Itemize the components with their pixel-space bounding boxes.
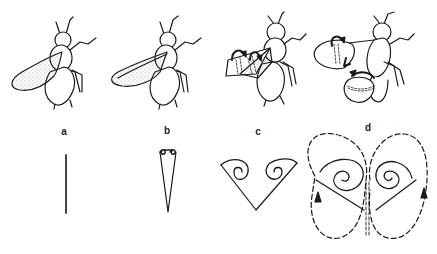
insect-d bbox=[314, 12, 414, 102]
panel-label-d: d bbox=[365, 122, 371, 133]
wing-section-d bbox=[308, 133, 427, 238]
panel-label-c: c bbox=[255, 126, 261, 137]
insect-a bbox=[12, 17, 96, 109]
insect-b bbox=[112, 16, 201, 109]
wing-section-c bbox=[221, 159, 297, 210]
wing-section-b bbox=[160, 150, 176, 212]
panel-label-b: b bbox=[164, 125, 170, 136]
panel-label-a: a bbox=[61, 126, 67, 137]
insect-c bbox=[226, 12, 306, 106]
